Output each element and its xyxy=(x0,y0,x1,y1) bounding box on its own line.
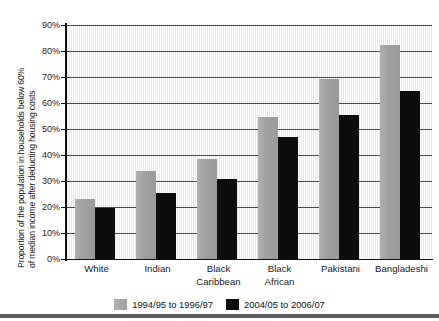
x-tick-label: BlackAfrican xyxy=(249,263,310,288)
x-tick-label-line: Pakistani xyxy=(310,263,371,276)
x-tick-label-line: Caribbean xyxy=(188,276,249,289)
y-tickmark xyxy=(61,103,65,104)
legend-item[interactable]: 1994/95 to 1996/97 xyxy=(114,299,213,310)
y-tick-label: 60% xyxy=(24,98,60,108)
bar xyxy=(400,91,420,259)
legend-swatch xyxy=(114,299,127,310)
x-tick-label-line: Bangladeshi xyxy=(371,263,432,276)
chart-legend: 1994/95 to 1996/972004/05 to 2006/07 xyxy=(0,296,439,312)
y-tick-label: 50% xyxy=(24,124,60,134)
y-tick-label: 30% xyxy=(24,176,60,186)
legend-label: 1994/95 to 1996/97 xyxy=(132,299,213,310)
y-tickmark xyxy=(61,155,65,156)
x-tick-label-line: Black xyxy=(188,263,249,276)
x-tick-label-line: Black xyxy=(249,263,310,276)
y-axis-line xyxy=(65,23,67,261)
y-tick-label: 0% xyxy=(24,254,60,264)
x-tick-label: White xyxy=(66,263,127,276)
chart-figure: Proportion of the population in househol… xyxy=(0,0,439,321)
y-tick-label: 90% xyxy=(24,20,60,30)
legend-swatch xyxy=(226,299,239,310)
y-tick-label: 80% xyxy=(24,46,60,56)
x-axis-tick-labels: WhiteIndianBlackCaribbeanBlackAfricanPak… xyxy=(66,263,432,297)
bar xyxy=(380,45,400,260)
y-tick-label: 70% xyxy=(24,72,60,82)
y-tickmark xyxy=(61,233,65,234)
x-tick-label-line: White xyxy=(66,263,127,276)
x-tick-label: BlackCaribbean xyxy=(188,263,249,288)
legend-label: 2004/05 to 2006/07 xyxy=(244,299,325,310)
y-tick-label: 20% xyxy=(24,202,60,212)
y-tickmark xyxy=(61,207,65,208)
x-tick-label: Bangladeshi xyxy=(371,263,432,276)
y-tickmark xyxy=(61,129,65,130)
y-tick-label: 10% xyxy=(24,228,60,238)
y-tickmark xyxy=(61,77,65,78)
x-tick-label: Indian xyxy=(127,263,188,276)
legend-item[interactable]: 2004/05 to 2006/07 xyxy=(226,299,325,310)
y-tick-label: 40% xyxy=(24,150,60,160)
x-tick-label-line: African xyxy=(249,276,310,289)
y-tickmark xyxy=(61,259,65,260)
plot-area xyxy=(66,25,432,259)
bottom-rule xyxy=(0,314,439,318)
x-axis-line xyxy=(65,259,433,261)
y-axis-tick-labels: 0%10%20%30%40%50%60%70%80%90% xyxy=(18,0,60,321)
y-tickmark xyxy=(61,25,65,26)
bar-group xyxy=(66,25,432,259)
y-tickmark xyxy=(61,51,65,52)
y-tickmark xyxy=(61,181,65,182)
x-tick-label: Pakistani xyxy=(310,263,371,276)
x-tick-label-line: Indian xyxy=(127,263,188,276)
